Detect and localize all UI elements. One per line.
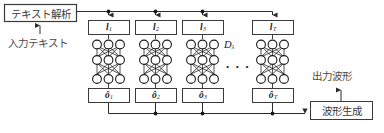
model-symbol-subscript: λ [232, 43, 235, 50]
output-label-1: ô1 [88, 90, 130, 100]
sequence-ellipsis: • • • [226, 62, 251, 72]
input-text-label: 入力テキスト [8, 38, 68, 49]
output-symbol-2: ô [152, 90, 157, 100]
architecture-diagram: テキスト解析 入力テキスト 波形生成 出力波形 l1 l2 l3 lT ô1 ô… [0, 0, 384, 133]
junction-dot-top-3 [201, 10, 205, 14]
output-label-3: ô3 [182, 90, 224, 100]
network-to-output-links [109, 84, 273, 89]
neural-network-cells [93, 40, 289, 83]
text-analysis-label: テキスト解析 [4, 4, 77, 22]
linguistic-label-t: lT [252, 22, 294, 32]
model-symbol: Dλ [224, 39, 234, 50]
neural-network-t [257, 40, 289, 83]
output-subscript-1: 1 [110, 94, 113, 100]
linguistic-subscript-3: 3 [203, 26, 206, 32]
junction-dot-top-1 [107, 10, 111, 14]
output-symbol-t: ô [269, 90, 274, 100]
junction-dot-bottom-3 [201, 112, 205, 116]
top-distribution-bus [77, 12, 273, 16]
model-symbol-letter: D [224, 39, 232, 50]
waveform-generation-label: 波形生成 [310, 101, 373, 120]
output-subscript-3: 3 [204, 94, 207, 100]
output-waveform-label: 出力波形 [312, 71, 352, 82]
neural-network-2 [140, 40, 172, 83]
linguistic-to-network-links [109, 35, 273, 40]
neural-network-1 [93, 40, 125, 83]
bottom-collection-bus [109, 103, 306, 114]
linguistic-subscript-1: 1 [109, 26, 112, 32]
linguistic-label-1: l1 [88, 22, 130, 32]
junction-dot-top-2 [154, 10, 158, 14]
output-symbol-1: ô [105, 90, 110, 100]
linguistic-subscript-t: T [273, 26, 276, 32]
output-symbol-3: ô [199, 90, 204, 100]
junction-dot-bottom-t [271, 112, 275, 116]
linguistic-label-2: l2 [135, 22, 177, 32]
linguistic-label-3: l3 [182, 22, 224, 32]
output-label-2: ô2 [135, 90, 177, 100]
neural-network-3 [187, 40, 219, 83]
linguistic-subscript-2: 2 [156, 26, 159, 32]
output-subscript-t: T [274, 94, 277, 100]
output-label-t: ôT [252, 90, 294, 100]
junction-dot-bottom-2 [154, 112, 158, 116]
output-subscript-2: 2 [157, 94, 160, 100]
